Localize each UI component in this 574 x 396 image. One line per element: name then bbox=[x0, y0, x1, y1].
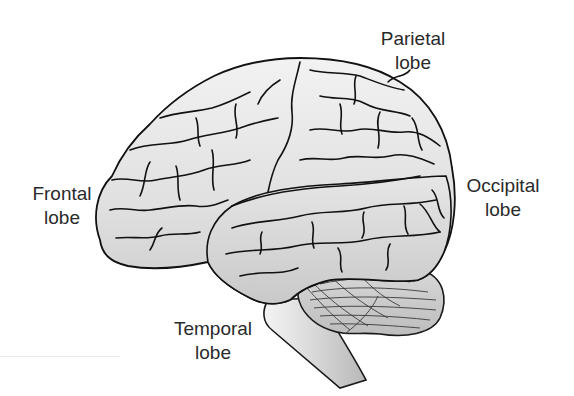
label-temporal-line2: lobe bbox=[163, 341, 263, 365]
label-parietal-line2: lobe bbox=[363, 51, 463, 75]
label-temporal-lobe: Temporal lobe bbox=[163, 317, 263, 365]
label-occipital-line1: Occipital bbox=[453, 174, 553, 198]
label-frontal-line2: lobe bbox=[12, 206, 112, 230]
divider-line bbox=[0, 356, 120, 357]
label-occipital-lobe: Occipital lobe bbox=[453, 174, 553, 222]
brain-diagram: Parietal lobe Frontal lobe Occipital lob… bbox=[0, 0, 574, 396]
label-frontal-line1: Frontal bbox=[12, 182, 112, 206]
label-frontal-lobe: Frontal lobe bbox=[12, 182, 112, 230]
label-parietal-line1: Parietal bbox=[363, 27, 463, 51]
cerebrum bbox=[96, 58, 455, 304]
label-occipital-line2: lobe bbox=[453, 198, 553, 222]
label-temporal-line1: Temporal bbox=[163, 317, 263, 341]
label-parietal-lobe: Parietal lobe bbox=[363, 27, 463, 75]
